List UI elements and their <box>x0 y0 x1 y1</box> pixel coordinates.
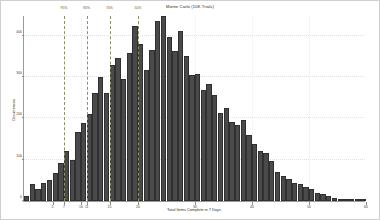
bar <box>326 196 331 201</box>
bar <box>184 56 189 201</box>
bar <box>292 183 297 201</box>
x-tick-label: 60 <box>364 205 368 209</box>
bar <box>30 184 35 201</box>
bar <box>320 194 325 201</box>
chart-title: Monte Carlo (10K Trials) <box>1 4 379 9</box>
y-tick <box>22 117 25 118</box>
bar <box>349 199 354 201</box>
bar <box>155 21 160 201</box>
bar <box>275 172 280 201</box>
y-tick <box>22 159 25 160</box>
y-tick-label: 100 <box>16 154 22 158</box>
y-axis-title: Occurrences <box>11 99 16 121</box>
bar <box>167 37 172 202</box>
x-tick-label: 11 <box>85 205 89 209</box>
bar <box>218 113 223 201</box>
bar <box>332 198 337 201</box>
bar <box>121 79 126 201</box>
bar <box>144 70 149 201</box>
x-tick-label: 10 <box>79 205 83 209</box>
bar <box>92 93 97 201</box>
bar <box>229 122 234 201</box>
bar <box>286 179 291 201</box>
plot-area: 95%85%70%50% 571011152030405060 01002003… <box>23 16 365 202</box>
chart-figure: Monte Carlo (10K Trials) Occurrences Tot… <box>0 0 380 220</box>
x-tick-label: 7 <box>63 205 65 209</box>
bar <box>206 84 211 201</box>
bar <box>246 135 251 201</box>
percentile-label-50: 50% <box>135 6 142 10</box>
bar <box>201 90 206 201</box>
bar <box>24 196 29 201</box>
percentile-label-95: 95% <box>60 6 67 10</box>
y-tick-label: 200 <box>16 112 22 116</box>
bar <box>263 153 268 201</box>
bar <box>70 160 75 201</box>
percentile-line-85 <box>87 16 88 201</box>
bar <box>355 199 360 201</box>
y-tick-label: 300 <box>16 71 22 75</box>
bar <box>104 93 109 201</box>
y-tick-label: 400 <box>16 30 22 34</box>
x-tick-label: 30 <box>193 205 197 209</box>
bar <box>115 58 120 201</box>
bar <box>258 151 263 201</box>
y-tick <box>22 76 25 77</box>
bar <box>58 163 63 201</box>
bar <box>98 77 103 201</box>
bar <box>53 173 58 201</box>
bar <box>35 189 40 201</box>
bar <box>298 184 303 201</box>
bar <box>149 50 154 201</box>
bar <box>235 125 240 201</box>
bar <box>241 120 246 201</box>
bar <box>212 95 217 201</box>
percentile-line-95 <box>64 16 65 201</box>
bar <box>343 199 348 201</box>
x-tick-label: 50 <box>307 205 311 209</box>
bar <box>41 183 46 201</box>
bar <box>75 132 80 201</box>
bar <box>281 176 286 201</box>
percentile-line-50 <box>138 16 139 201</box>
histogram-bars <box>24 16 365 201</box>
bar <box>195 74 200 201</box>
bar <box>309 189 314 201</box>
y-tick <box>22 35 25 36</box>
bar <box>360 199 365 201</box>
y-tick <box>22 200 25 201</box>
y-tick-label: 0 <box>20 195 22 199</box>
x-tick-label: 40 <box>250 205 254 209</box>
bar <box>315 193 320 201</box>
x-tick-label: 15 <box>108 205 112 209</box>
bar <box>338 199 343 201</box>
bar <box>172 51 177 201</box>
bar <box>303 187 308 201</box>
bar <box>81 123 86 201</box>
percentile-label-70: 70% <box>106 6 113 10</box>
bar <box>132 26 137 201</box>
bar <box>224 108 229 201</box>
percentile-line-70 <box>110 16 111 201</box>
bar <box>127 53 132 201</box>
percentile-label-85: 85% <box>83 6 90 10</box>
x-tick-label: 20 <box>136 205 140 209</box>
bar <box>189 75 194 201</box>
bar <box>161 16 166 201</box>
x-tick-label: 5 <box>52 205 54 209</box>
bar <box>47 180 52 201</box>
bar <box>269 161 274 201</box>
bar <box>178 31 183 201</box>
bar <box>252 144 257 201</box>
